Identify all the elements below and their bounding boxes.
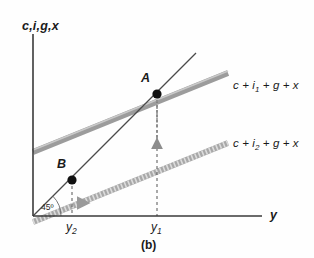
y1-sub: 1	[157, 226, 162, 236]
expenditure-line-1-label: c + i1 + g + x	[233, 80, 299, 94]
expenditure-line-1-highlight	[33, 71, 228, 150]
point-B-marker	[67, 175, 76, 184]
x-tick-label-y2: y2	[66, 221, 77, 236]
expenditure-line-1	[33, 73, 228, 152]
curve2-label-head: c + i	[233, 137, 255, 149]
curve2-label-tail: + g + x	[259, 137, 298, 149]
figure-caption: (b)	[141, 239, 156, 251]
x-tick-label-y1: y1	[151, 221, 162, 236]
keynesian-cross-figure: c,i,g,x y A B c + i1 + g + x c + i2 + g …	[0, 0, 314, 258]
angle-label: 45º	[41, 203, 54, 212]
x-axis-title: y	[270, 209, 277, 222]
curve1-label-head: c + i	[233, 79, 255, 91]
point-B-label: B	[57, 158, 66, 171]
point-A-marker	[152, 89, 161, 98]
y-axis-title: c,i,g,x	[22, 20, 59, 33]
plot-area	[0, 0, 314, 258]
y2-sub: 2	[72, 226, 77, 236]
curve1-label-tail: + g + x	[259, 79, 298, 91]
point-A-label: A	[141, 72, 150, 85]
expenditure-line-2-label: c + i2 + g + x	[233, 138, 299, 152]
